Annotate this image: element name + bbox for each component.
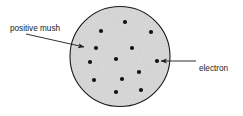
label-electron: electron xyxy=(199,64,229,73)
label-positive-mush: positive mush xyxy=(10,24,61,33)
sphere-group xyxy=(70,7,170,107)
electron-dot xyxy=(120,77,124,81)
electron-dot xyxy=(123,20,127,24)
electron-dot xyxy=(155,59,159,63)
electron-dot xyxy=(94,46,98,50)
electron-dot xyxy=(149,30,153,34)
plum-pudding-atom-figure: positive mush electron xyxy=(0,0,243,116)
electron-dot xyxy=(99,29,103,33)
figure-canvas: positive mush electron xyxy=(0,0,243,116)
electron-dot xyxy=(92,78,96,82)
electron-dot xyxy=(88,60,92,64)
electron-dot xyxy=(139,88,143,92)
electron-dot xyxy=(130,46,134,50)
electron-dot xyxy=(114,90,118,94)
electron-dot xyxy=(114,57,118,61)
electron-dot xyxy=(137,70,141,74)
